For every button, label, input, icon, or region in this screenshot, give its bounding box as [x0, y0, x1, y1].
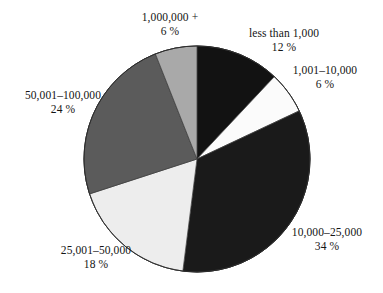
- pie-label-1001-10000-percent: 6 %: [270, 77, 380, 91]
- pie-label-25001-50000-percent: 18 %: [36, 257, 156, 271]
- pie-label-50001-100000-percent: 24 %: [2, 102, 124, 116]
- pie-label-1001-10000-name: 1,001–10,000: [270, 63, 380, 77]
- pie-label-50001-100000-name: 50,001–100,000: [2, 88, 124, 102]
- pie-label-less-than-1000-name: less than 1,000: [224, 26, 344, 40]
- pie-label-25001-50000-name: 25,001–50,000: [36, 243, 156, 257]
- pie-label-25001-50000: 25,001–50,000 18 %: [36, 243, 156, 271]
- pie-label-1000000-plus-name: 1,000,000 +: [108, 10, 232, 24]
- pie-chart-figure: less than 1,000 12 % 1,001–10,000 6 % 10…: [0, 0, 383, 293]
- pie-label-10000-25000-percent: 34 %: [272, 239, 382, 253]
- pie-label-1000000-plus-percent: 6 %: [108, 24, 232, 38]
- pie-label-10000-25000-name: 10,000–25,000: [272, 225, 382, 239]
- pie-label-1001-10000: 1,001–10,000 6 %: [270, 63, 380, 91]
- pie-label-less-than-1000: less than 1,000 12 %: [224, 26, 344, 54]
- pie-label-10000-25000: 10,000–25,000 34 %: [272, 225, 382, 253]
- pie-label-less-than-1000-percent: 12 %: [224, 40, 344, 54]
- pie-label-1000000-plus: 1,000,000 + 6 %: [108, 10, 232, 38]
- pie-label-50001-100000: 50,001–100,000 24 %: [2, 88, 124, 116]
